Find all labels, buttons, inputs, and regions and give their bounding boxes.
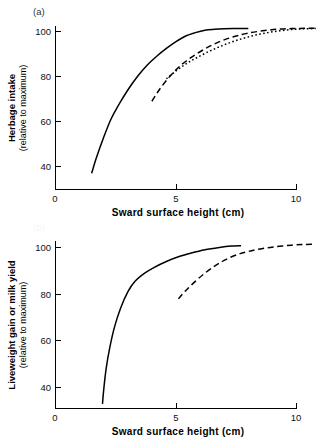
panel-a: (a) 100 80 60 40 0 5 10 Sward surf [0,0,319,221]
panel-a-ylabel-100: 100 [35,26,51,37]
panel-a-dashed-curve [152,28,318,101]
panel-b-xlabel-0: 0 [52,412,57,423]
panel-a-y-axis-subtitle: (relative to maximum) [18,65,28,152]
panel-b-dashed-curve [178,244,313,299]
panel-a-plot: (a) 100 80 60 40 0 5 10 Sward surf [0,0,319,221]
panel-b-ylabel-80: 80 [40,289,51,300]
panel-b-x-axis-title: Sward surface height (cm) [112,426,245,437]
panel-b-y-axis-title: Liveweight gain or milk yield [6,260,17,390]
panel-a-y-axis-title: Herbage intake [6,74,17,142]
panel-a-xlabel-5: 5 [173,193,178,204]
panel-b-plot: (b) 100 80 60 40 0 5 10 Sward surf [0,221,319,442]
panel-b-curves [103,244,314,404]
panel-b-label: (b) [33,222,45,233]
panel-b-ylabel-40: 40 [40,382,51,393]
panel-b-y-axis-subtitle: (relative to maximum) [18,282,28,369]
panel-a-ylabel-60: 60 [40,116,51,127]
panel-b-ylabel-60: 60 [40,335,51,346]
panel-b: (b) 100 80 60 40 0 5 10 Sward surf [0,221,319,442]
panel-a-ylabel-40: 40 [40,161,51,172]
panel-b-xlabel-10: 10 [291,412,302,423]
panel-a-label: (a) [33,6,45,17]
panel-b-ylabel-100: 100 [35,242,51,253]
panel-a-curves [92,28,319,173]
panel-b-solid-curve [103,246,242,404]
figure-container: (a) 100 80 60 40 0 5 10 Sward surf [0,0,319,442]
panel-a-ylabel-80: 80 [40,71,51,82]
panel-a-dotted-curve [166,29,315,79]
panel-b-xlabel-5: 5 [173,412,178,423]
panel-a-xlabel-0: 0 [52,193,57,204]
panel-a-xlabel-10: 10 [291,193,302,204]
panel-a-x-axis-title: Sward surface height (cm) [112,207,245,218]
panel-a-solid-curve [92,29,249,174]
